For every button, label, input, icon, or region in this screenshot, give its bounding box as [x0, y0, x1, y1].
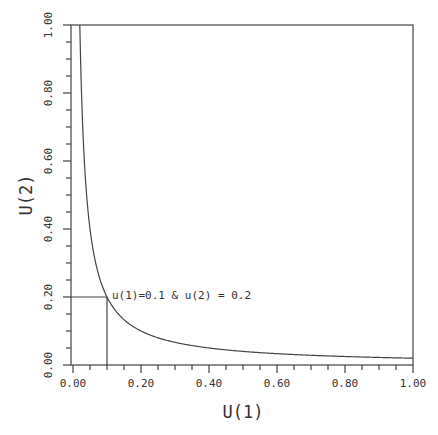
- hyperbola-curve: [80, 25, 413, 358]
- y-tick-label: 0.60: [42, 148, 55, 175]
- x-tick-label: 0.00: [60, 377, 87, 390]
- x-tick-label: 0.20: [128, 377, 155, 390]
- x-axis-title: U(1): [223, 402, 264, 422]
- x-tick-label: 0.40: [196, 377, 223, 390]
- y-tick-label: 0.00: [42, 352, 55, 379]
- point-annotation: u(1)=0.1 & u(2) = 0.2: [112, 289, 251, 302]
- y-axis-title: U(2): [16, 175, 36, 216]
- y-tick-label: 0.40: [42, 216, 55, 243]
- y-tick-label: 1.00: [42, 12, 55, 39]
- y-tick-label: 0.20: [42, 284, 55, 311]
- x-tick-label: 0.60: [264, 377, 291, 390]
- y-tick-label: 0.80: [42, 80, 55, 107]
- plot-area: 0.000.200.400.600.801.000.000.200.400.60…: [42, 12, 426, 390]
- chart: 0.000.200.400.600.801.000.000.200.400.60…: [0, 0, 438, 435]
- x-tick-label: 0.80: [332, 377, 359, 390]
- x-tick-label: 1.00: [400, 377, 427, 390]
- plot-frame: [71, 25, 413, 365]
